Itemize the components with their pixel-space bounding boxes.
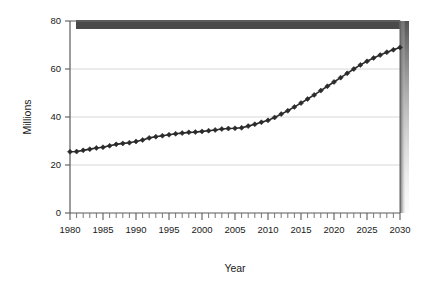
x-tick-label-1990: 1990 bbox=[125, 224, 146, 235]
x-tick-label-1985: 1985 bbox=[92, 224, 113, 235]
x-axis-title: Year bbox=[224, 262, 246, 274]
y-axis-title: Millions bbox=[21, 99, 33, 134]
y-tick-label-20: 20 bbox=[50, 159, 61, 170]
y-tick-label-80: 80 bbox=[50, 15, 61, 26]
x-tick-label-2015: 2015 bbox=[290, 224, 311, 235]
x-axis-tick-labels: 1980198519901995200020052010201520202025… bbox=[59, 224, 410, 235]
x-tick-label-2030: 2030 bbox=[389, 224, 410, 235]
x-tick-label-2005: 2005 bbox=[224, 224, 245, 235]
right-shadow-edge bbox=[400, 21, 405, 213]
chart-container: 020406080 198019851990199520002005201020… bbox=[0, 0, 426, 288]
y-tick-label-60: 60 bbox=[50, 63, 61, 74]
x-tick-label-1995: 1995 bbox=[158, 224, 179, 235]
x-tick-label-2000: 2000 bbox=[191, 224, 212, 235]
y-tick-label-40: 40 bbox=[50, 111, 61, 122]
x-tick-label-2020: 2020 bbox=[323, 224, 344, 235]
line-chart: 020406080 198019851990199520002005201020… bbox=[0, 0, 426, 288]
x-tick-label-1980: 1980 bbox=[59, 224, 80, 235]
y-tick-label-0: 0 bbox=[56, 207, 61, 218]
x-tick-label-2025: 2025 bbox=[356, 224, 377, 235]
x-tick-label-2010: 2010 bbox=[257, 224, 278, 235]
